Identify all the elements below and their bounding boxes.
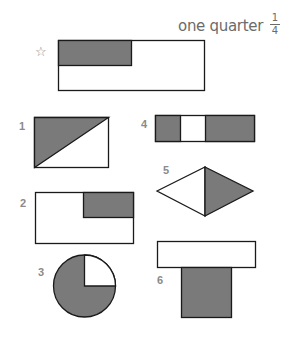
shape-label-5: 5 (163, 164, 169, 176)
shape-label-3: 3 (38, 266, 44, 278)
shape-4-strip (156, 116, 255, 142)
example-shape (59, 41, 205, 91)
shape-2-rectangle-corner (36, 193, 134, 244)
shape-5-rhombus (157, 167, 253, 216)
shape-label-1: 1 (19, 120, 25, 132)
shape-6-t-shape (158, 242, 256, 318)
shapes-canvas (0, 0, 297, 349)
shape-label-2: 2 (20, 197, 26, 209)
shape-1-rectangle-diagonal (35, 118, 109, 168)
shape-label-6: 6 (157, 274, 163, 286)
shape-3-circle (54, 255, 116, 317)
shape-label-4: 4 (141, 118, 147, 130)
